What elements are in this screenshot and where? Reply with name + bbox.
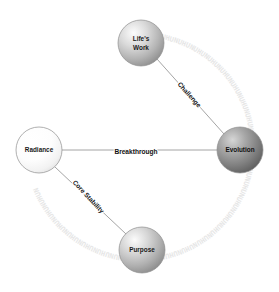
diagram-canvas: HUHUNUHUNUHUNUHUNUHUNUHUNUHUNUHUNUHUNUHU…: [0, 0, 279, 292]
edge-label-group: Challenge Breakthrough Core Stability: [71, 80, 203, 215]
edge-label-breakthrough: Breakthrough: [114, 148, 157, 156]
node-evolution[interactable]: Evolution: [217, 127, 263, 173]
node-purpose[interactable]: Purpose: [119, 227, 165, 273]
node-radiance-label: Radiance: [25, 146, 54, 153]
network-diagram: HUHUNUHUNUHUNUHUNUHUNUHUNUHUNUHUNUHUNUHU…: [0, 0, 279, 292]
node-radiance[interactable]: Radiance: [16, 127, 62, 173]
node-purpose-label: Purpose: [129, 246, 155, 254]
edge-label-core-stability: Core Stability: [71, 179, 106, 216]
node-lifes-work[interactable]: Life's Work: [118, 20, 164, 66]
edge-group: [55, 59, 224, 234]
node-evolution-label: Evolution: [225, 146, 254, 153]
node-lifes-work-label-line1: Life's: [133, 35, 150, 42]
node-lifes-work-label-line2: Work: [133, 44, 149, 51]
edge-label-challenge: Challenge: [176, 80, 203, 109]
